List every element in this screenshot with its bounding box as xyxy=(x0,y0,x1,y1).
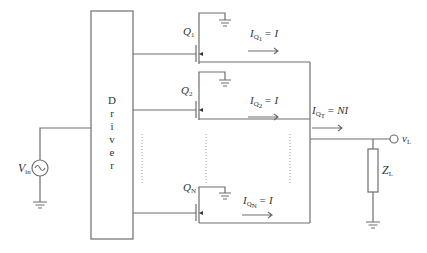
transistor-qn: QN IQN= I xyxy=(133,181,310,223)
transistor-q1: Q1 IQ1= I xyxy=(133,13,310,64)
svg-text:i: i xyxy=(110,120,113,132)
current-arrow-icon xyxy=(242,212,272,218)
transistor-q2: Q2 IQ2= I xyxy=(133,72,310,120)
ground-icon xyxy=(219,80,231,86)
ground-icon xyxy=(219,193,231,199)
output-terminal xyxy=(390,135,398,143)
svg-text:D: D xyxy=(108,94,116,106)
svg-text:v: v xyxy=(109,133,115,145)
ground-icon xyxy=(33,202,47,208)
svg-text:r: r xyxy=(110,107,114,119)
svg-text:IQ1= I: IQ1= I xyxy=(249,27,279,43)
svg-text:Q2: Q2 xyxy=(181,84,193,98)
svg-text:IQ2= I: IQ2= I xyxy=(249,94,279,110)
input-wire xyxy=(40,128,91,160)
svg-text:QN: QN xyxy=(183,181,196,195)
source-label: Vin xyxy=(18,161,31,176)
load-label: ZL xyxy=(382,163,393,178)
total-current-label: IQT= NI xyxy=(311,104,350,120)
svg-text:r: r xyxy=(110,159,114,171)
load-impedance xyxy=(368,149,378,192)
ground-icon xyxy=(366,222,380,228)
current-arrow-icon xyxy=(248,48,278,54)
ground-icon xyxy=(219,20,231,26)
output-label: vL xyxy=(402,132,411,146)
sine-wave-icon xyxy=(35,166,45,171)
driver-label: D r i v e r xyxy=(108,94,116,171)
current-arrow-icon xyxy=(312,125,342,131)
svg-text:e: e xyxy=(110,146,115,158)
power-amplifier-diagram: D r i v e r Vin Q1 IQ1= I Q2 IQ2= I xyxy=(0,0,427,253)
svg-text:Q1: Q1 xyxy=(183,25,195,39)
svg-text:IQN= I: IQN= I xyxy=(242,194,274,210)
